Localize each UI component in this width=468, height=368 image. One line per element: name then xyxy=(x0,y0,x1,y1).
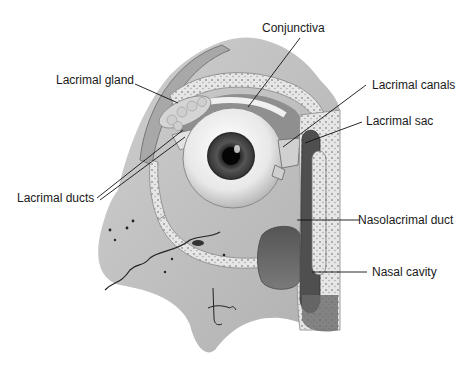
label-lacrimal-sac: Lacrimal sac xyxy=(366,114,433,128)
label-lacrimal-canals: Lacrimal canals xyxy=(372,78,455,92)
label-conjunctiva: Conjunctiva xyxy=(262,21,325,35)
lacrimal-apparatus-diagram: Conjunctiva Lacrimal gland Lacrimal cana… xyxy=(0,0,468,368)
label-nasolacrimal-duct: Nasolacrimal duct xyxy=(358,213,453,227)
label-nasal-cavity: Nasal cavity xyxy=(372,265,437,279)
label-lacrimal-ducts: Lacrimal ducts xyxy=(17,191,94,205)
anatomy-illustration xyxy=(0,0,468,368)
label-lacrimal-gland: Lacrimal gland xyxy=(56,73,134,87)
